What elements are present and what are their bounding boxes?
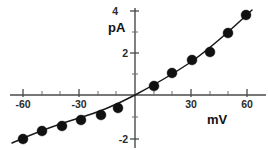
data-point bbox=[223, 28, 233, 38]
data-point bbox=[205, 47, 215, 57]
y-tick-label-plus-4: 4 bbox=[112, 5, 118, 17]
y-tick-label-minus-2: -2 bbox=[119, 133, 128, 145]
iv-curve-figure: -60 -30 30 60 4 2 -2 pA mV bbox=[0, 0, 268, 150]
data-point bbox=[113, 103, 123, 113]
iv-plot-canvas: -60 -30 30 60 4 2 -2 pA mV bbox=[0, 0, 268, 150]
data-point bbox=[149, 81, 159, 91]
x-axis-tick-labels: -60 -30 30 60 bbox=[15, 98, 253, 110]
x-tick-label-minus-30: -30 bbox=[71, 98, 86, 110]
x-tick-label-plus-30: 30 bbox=[185, 98, 197, 110]
data-point bbox=[187, 55, 197, 65]
x-tick-label-plus-60: 60 bbox=[241, 98, 253, 110]
y-tick-label-plus-2: 2 bbox=[122, 47, 128, 59]
data-point bbox=[76, 115, 86, 125]
data-point bbox=[18, 134, 28, 144]
data-point bbox=[96, 110, 106, 120]
data-point bbox=[167, 68, 177, 78]
data-point bbox=[57, 121, 67, 131]
data-point bbox=[37, 126, 47, 136]
x-tick-label-minus-60: -60 bbox=[15, 98, 30, 110]
y-axis-title: pA bbox=[108, 20, 126, 35]
data-point bbox=[241, 10, 251, 20]
x-axis-title: mV bbox=[207, 112, 228, 127]
